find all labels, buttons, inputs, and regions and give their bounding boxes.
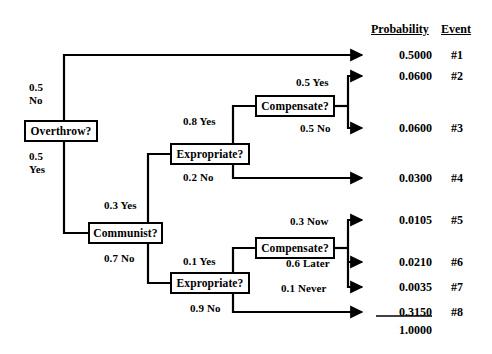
node-expropriate-lower[interactable]: Expropriate? — [170, 272, 250, 294]
edge-compensate2-later-outcome6 — [348, 248, 362, 262]
outcome-event: #7 — [442, 280, 472, 295]
edge-communist-yes-expropriate1 — [148, 154, 170, 222]
branch-label-compensate-upper-no: 0.5 No — [300, 122, 331, 134]
column-header-probability: Probability — [371, 22, 429, 37]
outcome-probability: 0.3150 — [376, 305, 432, 320]
outcome-probability: 0.0600 — [376, 69, 432, 84]
outcome-event: #8 — [442, 305, 472, 320]
branch-label-communist-yes: 0.3 Yes — [104, 199, 137, 211]
outcome-event: #4 — [442, 171, 472, 186]
edge-expropriate2-yes-compensate2 — [233, 248, 255, 272]
edge-communist-no-expropriate2 — [148, 244, 170, 283]
edge-expropriate1-yes-compensate1 — [233, 106, 255, 143]
outcome-probability: 0.0035 — [376, 280, 432, 295]
branch-label-expropriate-upper-no: 0.2 No — [183, 171, 214, 183]
branch-label-compensate-lower-never: 0.1 Never — [281, 282, 327, 294]
node-compensate-upper[interactable]: Compensate? — [255, 95, 335, 117]
outcome-probability: 0.0105 — [376, 213, 432, 228]
node-compensate-lower[interactable]: Compensate? — [255, 237, 335, 259]
edge-expropriate1-no-outcome4 — [233, 165, 362, 178]
outcome-event: #5 — [442, 213, 472, 228]
edge-overthrow-yes-communist — [64, 142, 88, 233]
branch-label-overthrow-no: 0.5No — [29, 81, 43, 107]
edge-compensate2-never-outcome7 — [348, 262, 362, 287]
branch-label-overthrow-yes: 0.5Yes — [29, 150, 45, 176]
branch-label-compensate-lower-later: 0.6 Later — [286, 257, 330, 269]
outcome-probability: 0.0600 — [376, 121, 432, 136]
branch-label-expropriate-upper-yes: 0.8 Yes — [183, 115, 216, 127]
branch-label-expropriate-lower-no: 0.9 No — [190, 302, 221, 314]
edge-compensate1-yes-outcome2 — [348, 76, 362, 106]
branch-label-expropriate-lower-yes: 0.1 Yes — [183, 255, 216, 267]
outcome-event: #6 — [442, 255, 472, 270]
node-overthrow[interactable]: Overthrow? — [24, 120, 98, 142]
branch-label-compensate-lower-now: 0.3 Now — [290, 215, 329, 227]
branch-label-compensate-upper-yes: 0.5 Yes — [296, 76, 329, 88]
outcome-probability: 0.0300 — [376, 171, 432, 186]
edge-expropriate2-no-outcome8 — [233, 294, 362, 312]
probability-total: 1.0000 — [376, 323, 432, 338]
outcome-event: #3 — [442, 121, 472, 136]
node-communist[interactable]: Communist? — [88, 222, 163, 244]
outcome-probability: 0.5000 — [376, 48, 432, 63]
node-expropriate-upper[interactable]: Expropriate? — [170, 143, 250, 165]
edge-compensate2-now-outcome5 — [348, 220, 362, 248]
outcome-event: #2 — [442, 69, 472, 84]
outcome-event: #1 — [442, 48, 472, 63]
column-header-event: Event — [441, 22, 471, 37]
edge-compensate1-no-outcome3 — [348, 106, 362, 128]
branch-label-communist-no: 0.7 No — [104, 252, 135, 264]
outcome-probability: 0.0210 — [376, 255, 432, 270]
